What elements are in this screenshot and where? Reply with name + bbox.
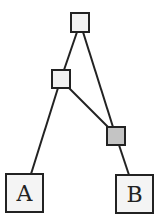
edges bbox=[31, 32, 129, 175]
nodes: AB bbox=[6, 13, 153, 213]
tree-diagram: AB bbox=[0, 0, 159, 224]
node-root bbox=[71, 13, 89, 32]
node-box bbox=[71, 13, 89, 32]
node-A: A bbox=[6, 174, 43, 212]
node-mid bbox=[52, 70, 70, 88]
edge-gray-B bbox=[119, 145, 129, 175]
edge-mid-A bbox=[31, 88, 58, 174]
node-B: B bbox=[116, 175, 153, 213]
node-gray bbox=[107, 127, 125, 145]
node-label: A bbox=[16, 181, 34, 206]
edge-root-mid bbox=[64, 32, 77, 70]
node-box bbox=[52, 70, 70, 88]
node-box bbox=[107, 127, 125, 145]
node-label: B bbox=[126, 182, 142, 207]
edge-root-gray bbox=[83, 32, 113, 127]
